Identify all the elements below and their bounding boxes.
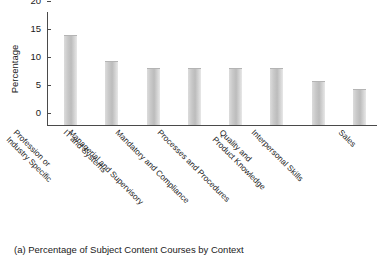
- bar: [64, 35, 77, 125]
- bar-series: [47, 13, 377, 125]
- bar: [229, 68, 242, 125]
- bar: [188, 68, 201, 125]
- bar: [353, 89, 366, 125]
- y-tick-label: 5: [36, 80, 41, 90]
- y-tick-label: 20: [30, 0, 41, 6]
- x-axis-labels: Profession orIndustry SpecificIT and Sys…: [0, 126, 384, 234]
- x-tick-label: Profession orIndustry Specific: [4, 128, 60, 184]
- x-tick-label: Sales: [336, 128, 357, 149]
- x-tick-label-line: Sales: [336, 128, 357, 149]
- bar: [270, 68, 283, 125]
- x-tick-label-line: Managerial and Supervisory: [66, 128, 145, 207]
- y-axis-ticks: 20151050: [0, 0, 47, 114]
- bar: [105, 61, 118, 125]
- bar: [147, 68, 160, 125]
- y-tick-label: 10: [30, 52, 41, 62]
- y-tick-label: 15: [30, 24, 41, 34]
- bar: [312, 81, 325, 125]
- y-tick-label: 0: [36, 108, 41, 118]
- x-tick-label: Managerial and Supervisory: [66, 128, 145, 207]
- figure-caption: (a) Percentage of Subject Content Course…: [14, 244, 244, 255]
- y-tick-mark: [47, 1, 51, 2]
